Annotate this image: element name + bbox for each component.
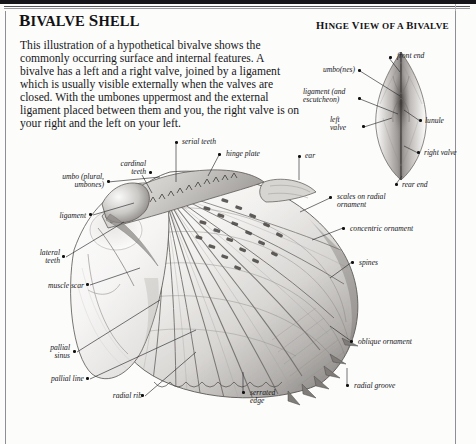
label-pallial-sinus-line2: sinus (26, 352, 70, 360)
label-cardinal-teeth-line2: teeth (104, 168, 146, 176)
dot-pallial-line (86, 377, 89, 380)
label-umbones: umbo(nes) (303, 66, 355, 74)
label-serial-teeth: serial teeth (182, 138, 216, 146)
label-ligament-escutcheon-line2: escutcheon) (303, 96, 339, 104)
dot-concentric-ornament (342, 227, 345, 230)
label-ligament: ligament (28, 212, 86, 220)
hinge-heading-text2: V (352, 20, 360, 31)
dot-hinge-plate (218, 153, 221, 156)
dot-rear-end (395, 183, 398, 186)
dot-serial-teeth (175, 141, 178, 144)
label-front-end: front end (397, 52, 424, 60)
label-lunule: lunule (425, 117, 444, 125)
dot-spines (351, 261, 354, 264)
right-margin-rule (455, 11, 456, 444)
page-root: BIVALVE SHELL This illustration of a hyp… (0, 0, 476, 444)
left-margin-rule (5, 11, 6, 444)
dot-umbones (358, 69, 361, 72)
label-lateral-teeth-line2: teeth (22, 257, 60, 265)
dot-oblique-ornament (350, 340, 353, 343)
page-title-word1: IVALVE (31, 13, 89, 29)
page-title-initial2: S (89, 11, 99, 30)
page-title-initial: B (19, 11, 31, 30)
label-scales-line2: ornament (337, 201, 366, 209)
top-border-rule (0, 0, 476, 4)
column-divider-tick (455, 4, 456, 11)
dot-radial-rib (141, 394, 144, 397)
hinge-view-heading: HINGE VIEW OF A BIVALVE (316, 20, 449, 31)
dot-scales (329, 196, 332, 199)
intro-paragraph: This illustration of a hypothetical biva… (20, 39, 300, 131)
hinge-heading-text: H (316, 20, 325, 31)
label-muscle-scar: muscle scar (22, 282, 84, 290)
label-pallial-line: pallial line (24, 375, 84, 383)
label-hinge-plate: hinge plate (226, 150, 260, 158)
dot-serrated-edge (242, 391, 245, 394)
label-ear: ear (305, 152, 315, 160)
dot-radial-groove (346, 384, 349, 387)
dot-cardinal-teeth (149, 171, 152, 174)
dot-umbo (107, 180, 110, 183)
dot-front-end (389, 56, 392, 59)
label-left-valve-line2: valve (330, 124, 346, 132)
dot-ear (298, 155, 301, 158)
label-serrated-edge-line2: edge (250, 397, 264, 405)
page-title: BIVALVE SHELL (19, 11, 140, 31)
dot-left-valve (362, 125, 365, 128)
dot-ligament-escutcheon (358, 97, 361, 100)
dot-right-valve (417, 151, 420, 154)
dot-ligament (89, 213, 92, 216)
page-title-word2: HELL (98, 13, 139, 29)
label-oblique-ornament: oblique ornament (358, 338, 412, 346)
label-radial-rib: radial rib (88, 392, 142, 400)
label-concentric-ornament: concentric ornament (350, 225, 413, 233)
label-radial-groove: radial groove (354, 382, 395, 390)
dot-lunule (419, 119, 422, 122)
label-spines: spines (359, 259, 378, 267)
label-rear-end: rear end (402, 181, 428, 189)
dot-muscle-scar (86, 283, 89, 286)
top-hairline-rule-secondary (4, 8, 470, 9)
dot-lateral-teeth (62, 255, 65, 258)
label-right-valve: right valve (424, 149, 457, 157)
top-hairline-rule (4, 6, 470, 7)
dot-pallial-sinus (73, 350, 76, 353)
label-umbo-line2: umbones) (34, 181, 104, 189)
hinge-heading-text3: B (406, 20, 413, 31)
